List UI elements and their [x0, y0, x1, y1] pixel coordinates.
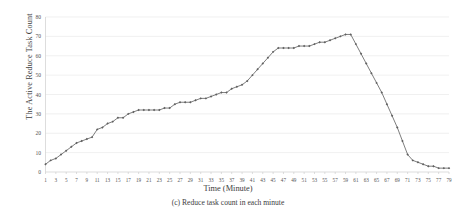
y-tick-labels-group: 01020304050607080: [35, 14, 41, 175]
x-tick-label: 63: [364, 177, 370, 183]
y-axis-label: The Active Reduce Task Count: [25, 0, 34, 142]
line-chart: 01020304050607080 1357911131517192123252…: [0, 0, 456, 182]
y-tick-label: 50: [35, 72, 41, 78]
data-point-marker: [448, 167, 450, 169]
data-point-marker: [205, 97, 207, 99]
x-tick-label: 49: [291, 177, 297, 183]
data-point-marker: [189, 101, 191, 103]
x-tick-label: 37: [229, 177, 235, 183]
x-axis-label: Time (Minute): [0, 184, 456, 193]
x-tick-label: 1: [44, 177, 47, 183]
x-tick-label: 47: [281, 177, 287, 183]
series-line: [46, 34, 450, 168]
x-tick-label: 7: [75, 177, 78, 183]
x-tick-label: 67: [384, 177, 390, 183]
data-point-marker: [401, 140, 403, 142]
data-point-marker: [417, 161, 419, 163]
y-tick-label: 20: [35, 130, 41, 136]
x-tick-label: 35: [219, 177, 225, 183]
data-point-marker: [282, 47, 284, 49]
x-tick-label: 15: [115, 177, 121, 183]
data-point-marker: [329, 39, 331, 41]
data-point-marker: [132, 111, 134, 113]
gridlines-group: [46, 17, 450, 174]
data-point-marker: [422, 163, 424, 165]
x-tick-label: 31: [198, 177, 204, 183]
x-tick-label: 51: [302, 177, 308, 183]
x-tick-label: 57: [333, 177, 339, 183]
data-point-marker: [210, 95, 212, 97]
data-point-marker: [153, 109, 155, 111]
data-point-marker: [287, 47, 289, 49]
x-tick-label: 59: [343, 177, 349, 183]
x-tick-label: 3: [55, 177, 58, 183]
data-point-marker: [339, 35, 341, 37]
data-point-marker: [163, 107, 165, 109]
x-tick-label: 69: [395, 177, 401, 183]
x-tick-labels-group: 1357911131517192123252729313335373941434…: [44, 177, 452, 183]
data-point-marker: [318, 41, 320, 43]
data-point-marker: [236, 86, 238, 88]
data-point-marker: [179, 101, 181, 103]
x-tick-label: 11: [95, 177, 100, 183]
data-point-marker: [137, 109, 139, 111]
data-point-marker: [143, 109, 145, 111]
data-point-marker: [313, 43, 315, 45]
x-tick-label: 77: [436, 177, 442, 183]
x-tick-label: 13: [105, 177, 111, 183]
y-tick-label: 30: [35, 111, 41, 117]
data-point-marker: [220, 91, 222, 93]
data-point-marker: [86, 138, 88, 140]
figure-container: 01020304050607080 1357911131517192123252…: [0, 0, 456, 215]
x-tick-label: 29: [188, 177, 194, 183]
y-tick-label: 40: [35, 92, 41, 98]
data-point-marker: [184, 101, 186, 103]
x-tick-label: 39: [239, 177, 245, 183]
x-tick-label: 9: [86, 177, 89, 183]
x-tick-label: 25: [167, 177, 173, 183]
data-point-marker: [443, 167, 445, 169]
figure-caption: (c) Reduce task count in each minute: [0, 198, 456, 207]
y-tick-label: 70: [35, 33, 41, 39]
x-tick-label: 79: [446, 177, 452, 183]
x-tick-label: 65: [374, 177, 380, 183]
x-tick-label: 73: [415, 177, 421, 183]
data-point-marker: [194, 99, 196, 101]
x-tick-label: 71: [405, 177, 411, 183]
data-point-marker: [432, 165, 434, 167]
x-tick-label: 75: [426, 177, 432, 183]
data-point-marker: [158, 109, 160, 111]
x-tick-label: 5: [65, 177, 68, 183]
data-point-marker: [81, 140, 83, 142]
x-tick-label: 17: [126, 177, 132, 183]
y-tick-label: 0: [38, 169, 41, 175]
x-tick-label: 33: [208, 177, 214, 183]
data-point-marker: [303, 45, 305, 47]
x-tick-label: 21: [146, 177, 152, 183]
y-tick-label: 60: [35, 53, 41, 59]
y-tick-label: 10: [35, 150, 41, 156]
data-point-marker: [215, 93, 217, 95]
x-tick-label: 53: [312, 177, 318, 183]
data-point-marker: [344, 33, 346, 35]
x-tick-label: 27: [177, 177, 183, 183]
y-tick-label: 80: [35, 14, 41, 20]
data-point-marker: [148, 109, 150, 111]
x-tick-label: 41: [250, 177, 256, 183]
data-point-marker: [308, 45, 310, 47]
x-tick-label: 55: [322, 177, 328, 183]
x-tick-label: 23: [157, 177, 163, 183]
x-tick-label: 43: [260, 177, 266, 183]
data-point-marker: [293, 47, 295, 49]
data-point-marker: [437, 167, 439, 169]
x-tick-label: 45: [271, 177, 277, 183]
x-tick-label: 61: [353, 177, 359, 183]
data-point-marker: [199, 97, 201, 99]
x-tick-label: 19: [136, 177, 142, 183]
data-series-group: [44, 33, 450, 169]
data-point-marker: [298, 45, 300, 47]
chart-plot-area: 01020304050607080 1357911131517192123252…: [0, 0, 456, 182]
data-point-marker: [334, 37, 336, 39]
data-point-marker: [324, 41, 326, 43]
data-point-marker: [427, 165, 429, 167]
